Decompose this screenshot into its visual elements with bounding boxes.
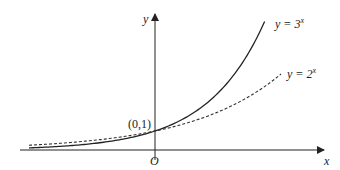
x-axis-label: x <box>323 154 330 168</box>
exponential-graph: y x O (0,1) y = 3x y = 2x <box>0 0 340 170</box>
curve-3x-label: y = 3x <box>274 16 304 31</box>
y-axis-label: y <box>142 12 149 26</box>
point-label: (0,1) <box>128 117 151 131</box>
curve-2x-label: y = 2x <box>286 66 316 81</box>
origin-label: O <box>150 154 159 168</box>
